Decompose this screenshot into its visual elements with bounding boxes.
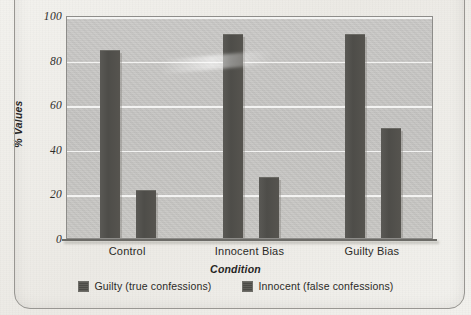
x-axis-tick-labels: ControlInnocent BiasGuilty Bias bbox=[66, 245, 433, 265]
legend-label-1: Guilty (true confessions) bbox=[95, 280, 212, 292]
legend-swatch-icon-1 bbox=[78, 281, 89, 292]
bar-chart-figure: % Values 020406080100 ControlInnocent Bi… bbox=[0, 0, 471, 315]
x-tick-control: Control bbox=[109, 245, 146, 257]
bar-control-series-1 bbox=[100, 50, 120, 238]
y-tick-100: 100 bbox=[44, 10, 62, 22]
x-tick-innocent-bias: Innocent Bias bbox=[215, 245, 284, 257]
plot-area bbox=[66, 16, 433, 239]
legend-item-1: Guilty (true confessions) bbox=[78, 280, 212, 292]
legend-label-2: Innocent (false confessions) bbox=[259, 280, 394, 292]
y-tick-20: 20 bbox=[50, 188, 62, 200]
legend-swatch-icon-2 bbox=[242, 281, 253, 292]
x-axis-shadow bbox=[64, 241, 439, 244]
x-tick-guilty-bias: Guilty Bias bbox=[344, 245, 399, 257]
bar-guilty-bias-series-1 bbox=[345, 34, 365, 238]
y-tick-80: 80 bbox=[50, 55, 62, 67]
chart-legend: Guilty (true confessions)Innocent (false… bbox=[0, 280, 471, 292]
bar-control-series-2 bbox=[136, 190, 156, 238]
x-axis-line bbox=[62, 239, 437, 241]
bar-innocent-bias-series-1 bbox=[223, 34, 243, 238]
y-tick-40: 40 bbox=[50, 144, 62, 156]
bar-innocent-bias-series-2 bbox=[259, 177, 279, 238]
x-axis-title: Condition bbox=[0, 263, 471, 275]
y-axis-tick-labels: 020406080100 bbox=[18, 8, 62, 248]
gridline-100 bbox=[67, 17, 432, 19]
bar-guilty-bias-series-2 bbox=[381, 128, 401, 238]
legend-item-2: Innocent (false confessions) bbox=[242, 280, 394, 292]
y-tick-60: 60 bbox=[50, 99, 62, 111]
